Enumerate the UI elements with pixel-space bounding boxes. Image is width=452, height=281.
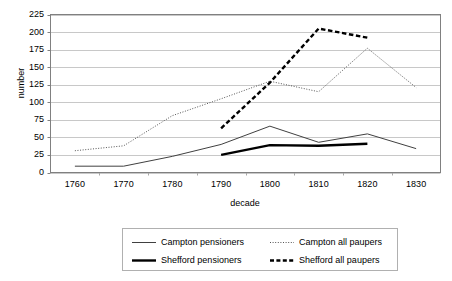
y-tick-label: 125: [16, 79, 44, 90]
x-tick-label: 1780: [152, 179, 192, 190]
y-tick-label: 150: [16, 62, 44, 73]
legend-swatch-thick-solid: [131, 255, 157, 265]
data-series-layer: [75, 29, 416, 167]
legend-swatch-fine-dotted: [269, 237, 295, 247]
x-tick-label: 1770: [104, 179, 144, 190]
series-line-2: [221, 144, 367, 155]
legend-swatch-thick-dashed: [269, 255, 295, 265]
x-tick-label: 1760: [55, 179, 95, 190]
y-tick-label: 0: [16, 167, 44, 178]
legend-row-2-right: Shefford all paupers: [269, 252, 379, 268]
legend-item-shefford-pensioners: Shefford pensioners: [131, 252, 241, 268]
x-tick-label: 1790: [201, 179, 241, 190]
series-line-0: [75, 126, 416, 166]
y-tick-label: 100: [16, 97, 44, 108]
legend-row-1-right: Campton all paupers: [269, 234, 382, 250]
legend-item-shefford-all-paupers: Shefford all paupers: [269, 252, 379, 268]
legend-label: Shefford pensioners: [161, 255, 241, 265]
y-tick-label: 225: [16, 9, 44, 20]
y-tick-label: 200: [16, 27, 44, 38]
legend-item-campton-all-paupers: Campton all paupers: [269, 234, 382, 250]
plot-border: [51, 15, 441, 173]
legend-label: Campton pensioners: [161, 237, 244, 247]
legend-item-campton-pensioners: Campton pensioners: [131, 234, 244, 250]
line-chart: number decade 0255075100125150175200225 …: [0, 0, 452, 281]
x-tick-label: 1800: [250, 179, 290, 190]
y-tick-label: 75: [16, 114, 44, 125]
x-tick-label: 1810: [299, 179, 339, 190]
x-axis-title: decade: [50, 198, 440, 208]
x-tick-label: 1830: [396, 179, 436, 190]
legend-label: Shefford all paupers: [299, 255, 379, 265]
chart-legend: Campton pensioners Campton all paupers S…: [122, 228, 398, 271]
series-line-3: [221, 29, 367, 129]
legend-label: Campton all paupers: [299, 237, 382, 247]
y-tick-label: 25: [16, 149, 44, 160]
legend-swatch-thin-solid: [131, 237, 157, 247]
y-tick-label: 175: [16, 44, 44, 55]
legend-row-2: Shefford pensioners: [131, 252, 241, 268]
y-tick-label: 50: [16, 132, 44, 143]
x-tick-label: 1820: [347, 179, 387, 190]
legend-row-1: Campton pensioners: [131, 234, 244, 250]
